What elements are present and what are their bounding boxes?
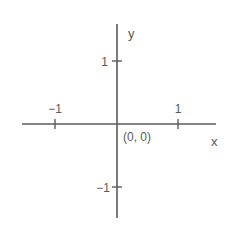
y-tick-label-pos1: 1 xyxy=(101,55,108,69)
x-tick-label-neg1: −1 xyxy=(48,102,62,116)
origin-label: (0, 0) xyxy=(123,130,151,144)
y-tick-label-neg1: −1 xyxy=(96,181,110,195)
y-axis-label: y xyxy=(128,26,135,41)
x-tick-label-pos1: 1 xyxy=(175,102,182,116)
coordinate-plane: y x −1 1 1 −1 (0, 0) xyxy=(0,0,232,234)
x-axis-label: x xyxy=(211,134,218,149)
